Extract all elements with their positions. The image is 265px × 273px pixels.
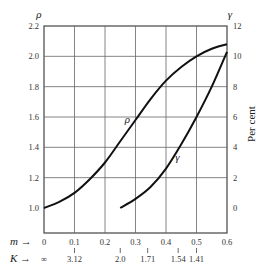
y-right-tick-label: 10 <box>233 51 242 61</box>
x-tick-label: 0.6 <box>222 237 233 247</box>
k-tick-label: 1.54 <box>171 254 187 264</box>
y-right-tick-label: 4 <box>233 142 238 152</box>
y-right-tick-label: 0 <box>233 203 237 213</box>
y-left-axis-title: ρ <box>35 8 41 20</box>
k-tick-label: 1.41 <box>189 254 204 264</box>
k-tick-label: 1.71 <box>140 254 155 264</box>
k-axis-label: K → <box>9 252 31 264</box>
chart: 00.10.20.30.40.50.61.01.21.41.61.82.02.2… <box>0 0 265 273</box>
x-tick-label: 0.1 <box>69 237 80 247</box>
y-left-tick-label: 1.8 <box>28 82 39 92</box>
y-right-tick-label: 6 <box>233 112 237 122</box>
k-tick-label: 3.12 <box>67 254 82 264</box>
x-tick-label: 0.4 <box>161 237 172 247</box>
y-left-tick-label: 2.0 <box>28 51 39 61</box>
gamma-curve <box>120 52 227 208</box>
y-right-tick-label: 12 <box>233 21 242 31</box>
x-tick-label: 0.5 <box>191 237 202 247</box>
y-left-tick-label: 1.0 <box>28 203 39 213</box>
k-tick-label: ∞ <box>41 254 47 264</box>
gamma-curve-label: γ <box>175 151 180 163</box>
y-right-axis-title: γ <box>228 8 233 20</box>
x-tick-label: 0.2 <box>100 237 111 247</box>
x-tick-label: 0.3 <box>130 237 141 247</box>
x-tick-label: 0 <box>42 237 46 247</box>
y-left-tick-label: 2.2 <box>28 21 39 31</box>
k-tick-label: 2.0 <box>115 254 126 264</box>
y-left-tick-label: 1.4 <box>28 142 39 152</box>
per-cent-label: Per cent <box>245 106 257 142</box>
y-right-tick-label: 8 <box>233 82 237 92</box>
rho-curve-label: ρ <box>124 113 130 125</box>
y-left-tick-label: 1.6 <box>28 112 39 122</box>
y-left-tick-label: 1.2 <box>28 173 39 183</box>
m-axis-label: m → <box>10 235 32 247</box>
y-right-tick-label: 2 <box>233 173 237 183</box>
